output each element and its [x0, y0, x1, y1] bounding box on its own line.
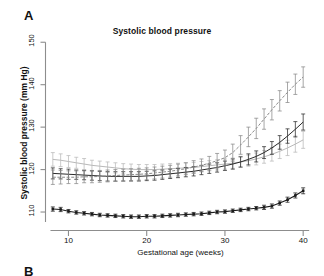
series-steep-gray-dashed-curve [51, 67, 305, 185]
plot-area [0, 0, 324, 276]
data-point-marker [75, 211, 78, 214]
data-point-marker [302, 190, 305, 193]
series-line [53, 77, 303, 177]
y-tick-label: 120 [27, 157, 36, 179]
data-point-marker [271, 205, 274, 208]
data-point-marker [91, 213, 94, 216]
data-point-marker [114, 215, 117, 218]
x-tick-label: 30 [214, 236, 236, 245]
x-axis-title: Gestational age (weeks) [45, 248, 316, 257]
series-layer [51, 67, 305, 219]
data-point-marker [83, 212, 86, 215]
x-tick-label: 10 [57, 236, 79, 245]
x-tick-label: 20 [136, 236, 158, 245]
data-point-marker [294, 194, 297, 197]
x-tick-label: 40 [292, 236, 314, 245]
series-bottom-dark-curve [51, 188, 305, 219]
panel-a-label: A [24, 8, 33, 23]
data-point-marker [59, 208, 62, 211]
data-point-marker [286, 198, 289, 201]
data-point-marker [153, 215, 156, 218]
data-point-marker [231, 209, 234, 212]
y-tick-label: 150 [27, 30, 36, 52]
panel-b-label: B [24, 264, 33, 276]
data-point-marker [208, 212, 211, 215]
data-point-marker [169, 214, 172, 217]
data-point-marker [130, 215, 133, 218]
data-point-marker [185, 213, 188, 216]
data-point-marker [278, 202, 281, 205]
data-point-marker [138, 215, 141, 218]
data-point-marker [98, 214, 101, 217]
data-point-marker [247, 208, 250, 211]
data-point-marker [200, 212, 203, 215]
error-bars [51, 67, 305, 185]
y-tick-label: 110 [27, 200, 36, 222]
data-point-marker [106, 214, 109, 217]
data-point-marker [122, 215, 125, 218]
y-tick-label: 140 [27, 72, 36, 94]
data-point-marker [161, 215, 164, 218]
data-point-marker [255, 207, 258, 210]
data-point-marker [145, 215, 148, 218]
figure-panel-a: A Systolic blood pressure Systolic blood… [0, 0, 324, 276]
data-point-marker [177, 214, 180, 217]
y-tick-label: 130 [27, 115, 36, 137]
data-point-marker [263, 206, 266, 209]
chart-title: Systolic blood pressure [0, 26, 324, 36]
data-point-marker [192, 213, 195, 216]
data-point-marker [224, 210, 227, 213]
data-point-marker [216, 211, 219, 214]
data-point-marker [239, 209, 242, 212]
data-point-marker [52, 208, 55, 211]
data-point-marker [67, 210, 70, 213]
